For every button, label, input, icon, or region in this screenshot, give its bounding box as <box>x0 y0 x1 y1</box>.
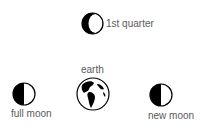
earth-label: earth <box>81 65 104 75</box>
first-quarter-label: 1st quarter <box>106 19 154 29</box>
crescent-moon-icon <box>81 12 104 35</box>
new-moon-label: new moon <box>148 111 194 121</box>
half-moon-icon <box>149 83 173 107</box>
globe-icon <box>76 77 110 111</box>
full-moon-label: full moon <box>11 109 52 119</box>
half-moon-icon <box>12 82 36 106</box>
